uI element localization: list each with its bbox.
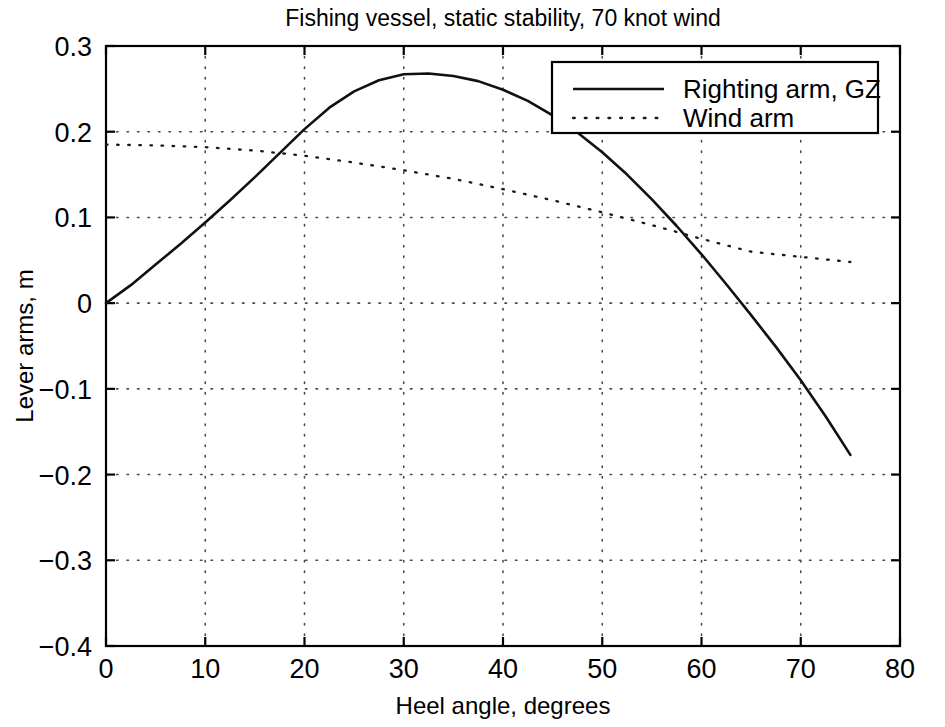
x-tick-label: 20 (289, 654, 319, 684)
x-tick-label: 10 (190, 654, 220, 684)
chart-title: Fishing vessel, static stability, 70 kno… (285, 5, 720, 31)
x-axis-title: Heel angle, degrees (396, 692, 611, 719)
horizontal-gridlines (106, 132, 900, 561)
y-tick-label: 0.2 (54, 118, 92, 148)
x-tick-label: 30 (389, 654, 419, 684)
x-tick-label: 60 (686, 654, 716, 684)
x-tick-label: 50 (587, 654, 617, 684)
y-tick-label: −0.1 (39, 375, 92, 405)
x-tick-label: 40 (488, 654, 518, 684)
legend[interactable]: Righting arm, GZ Wind arm (552, 62, 881, 133)
y-tick-label: 0 (77, 289, 92, 319)
x-axis-tick-labels: 01020304050607080 (98, 654, 915, 684)
y-axis-title: Lever arms, m (11, 269, 38, 422)
y-axis-tick-labels: 0.30.20.10−0.1−0.2−0.3−0.4 (39, 32, 92, 662)
y-tick-label: 0.1 (54, 203, 92, 233)
y-tick-label: −0.2 (39, 461, 92, 491)
y-axis-ticks (106, 46, 900, 646)
y-tick-label: −0.4 (39, 632, 92, 662)
chart-canvas: Fishing vessel, static stability, 70 kno… (0, 0, 945, 727)
legend-label-wind-arm: Wind arm (683, 103, 794, 133)
x-tick-label: 70 (786, 654, 816, 684)
x-tick-label: 80 (885, 654, 915, 684)
legend-label-righting-arm: Righting arm, GZ (683, 74, 881, 104)
y-tick-label: −0.3 (39, 546, 92, 576)
series-line-wind-arm (106, 145, 850, 262)
y-tick-label: 0.3 (54, 32, 92, 62)
x-axis-ticks (106, 46, 900, 646)
stability-chart-figure: Fishing vessel, static stability, 70 kno… (0, 0, 945, 727)
vertical-gridlines (205, 46, 801, 646)
x-tick-label: 0 (98, 654, 113, 684)
plot-frame (106, 46, 900, 646)
